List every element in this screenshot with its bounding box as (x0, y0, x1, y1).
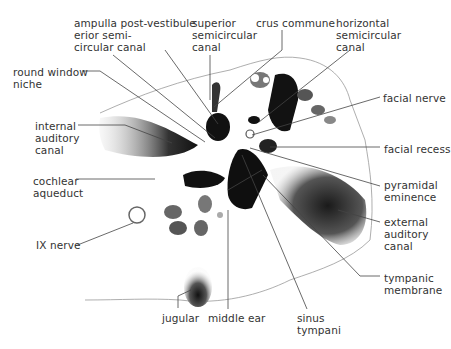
label-cochlear-aqueduct: cochlear aqueduct (33, 175, 83, 199)
leader-lines (75, 30, 380, 309)
facial-recess-shape (259, 139, 277, 153)
label-round-window: round window niche (13, 66, 88, 90)
jugular-shape (184, 267, 212, 307)
label-vestibule: vestibule (147, 17, 196, 29)
cochlea-shape (183, 171, 225, 188)
label-jugular: jugular (162, 312, 199, 324)
internal-auditory-canal-shape (99, 116, 198, 157)
label-pyramidal: pyramidal eminence (384, 179, 438, 203)
label-sinus-tympani: sinus tympani (297, 312, 341, 336)
label-tympanic-membrane: tympanic membrane (384, 272, 442, 296)
vestibule-shape (206, 113, 230, 141)
label-crus-commune: crus commune (256, 17, 335, 29)
label-internal-auditory: internal auditory canal (35, 120, 80, 156)
label-facial-nerve: facial nerve (383, 92, 446, 104)
label-superior-canal: superior semicircular canal (192, 17, 257, 53)
facial-nerve-shape (246, 130, 254, 138)
label-middle-ear: middle ear (208, 312, 265, 324)
label-ix-nerve: IX nerve (36, 239, 81, 251)
label-facial-recess: facial recess (384, 143, 451, 155)
label-horizontal-canal: horizontal semicircular canal (336, 17, 401, 53)
middle-ear-shape (227, 149, 268, 209)
superior-canal-shape (212, 82, 220, 112)
ix-nerve-shape (129, 207, 145, 223)
label-external-auditory: external auditory canal (384, 216, 429, 252)
label-ampulla: ampulla post- erior semi- circular canal (74, 17, 147, 53)
